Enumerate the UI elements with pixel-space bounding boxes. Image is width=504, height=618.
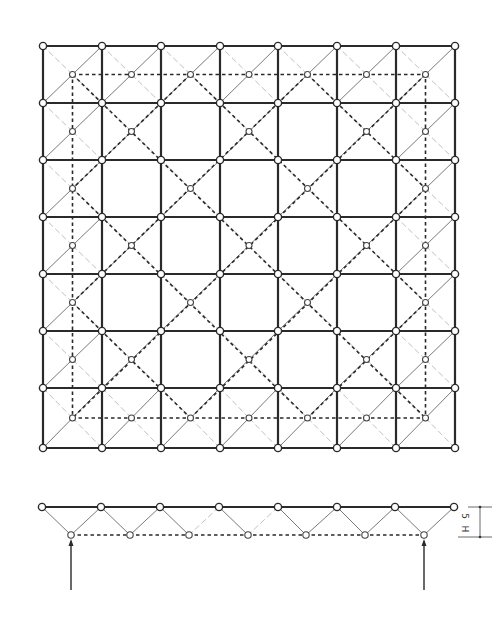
elevation-top-node [450, 503, 457, 510]
web-line [191, 303, 221, 332]
web-line [43, 46, 73, 75]
web-line [426, 331, 456, 360]
bottom-node [70, 186, 76, 192]
elevation-bottom-node [68, 532, 74, 538]
arrow-head [69, 539, 74, 546]
bottom-node [70, 129, 76, 135]
top-node [274, 99, 281, 106]
web-line [132, 388, 162, 418]
bottom-node [129, 243, 135, 249]
elevation-web-line [424, 507, 454, 535]
web-line [337, 46, 367, 75]
web-line [132, 360, 162, 389]
web-line [426, 360, 456, 389]
top-node [274, 213, 281, 220]
web-line [426, 388, 456, 418]
web-line [396, 217, 426, 246]
web-line [396, 132, 426, 161]
elevation-web-line [395, 507, 424, 535]
top-node [451, 42, 458, 49]
bottom-node [129, 72, 135, 78]
dimension-label: H 5 [462, 508, 476, 538]
top-node [39, 384, 46, 391]
web-line [220, 418, 249, 448]
bottom-node [423, 72, 429, 78]
elevation-web-line [306, 507, 337, 535]
dimension-label-top: H [460, 526, 470, 533]
elevation-top-node [333, 503, 340, 510]
top-node [98, 270, 105, 277]
web-line [426, 217, 456, 246]
web-line [249, 75, 278, 104]
bottom-node [70, 243, 76, 249]
bottom-node [423, 129, 429, 135]
web-line [73, 217, 103, 246]
elevation-bottom-node [245, 532, 251, 538]
web-line [220, 46, 249, 75]
elevation-web-line [130, 507, 160, 535]
elevation-web-line [248, 507, 278, 535]
bottom-node [246, 72, 252, 78]
web-line [161, 46, 191, 75]
top-node [157, 270, 164, 277]
top-node [98, 444, 105, 451]
top-node [216, 327, 223, 334]
web-line [396, 360, 426, 389]
top-node [157, 327, 164, 334]
web-line [43, 189, 73, 218]
elevation-top-node [97, 503, 104, 510]
top-node [216, 384, 223, 391]
top-node [451, 213, 458, 220]
web-line [43, 331, 73, 360]
top-node [274, 270, 281, 277]
top-node [216, 156, 223, 163]
web-line [43, 217, 73, 246]
web-line [367, 132, 397, 161]
web-line [367, 46, 397, 75]
web-line [337, 132, 367, 161]
elevation-web-line [71, 507, 101, 535]
web-line [102, 418, 132, 448]
web-line [73, 103, 103, 132]
web-line [102, 388, 132, 418]
elevation-web [42, 507, 454, 535]
web-line [102, 75, 132, 104]
top-node [451, 270, 458, 277]
web-line [426, 274, 456, 303]
web-line [396, 418, 426, 448]
top-node [392, 213, 399, 220]
plan-view [0, 0, 504, 470]
bottom-node [129, 415, 135, 421]
web-line [426, 189, 456, 218]
bottom-node [70, 415, 76, 421]
web-line [43, 160, 73, 189]
elevation-web-line [365, 507, 395, 535]
top-node [98, 99, 105, 106]
web-line [249, 360, 278, 389]
web-line [249, 388, 278, 418]
bottom-node [188, 300, 194, 306]
top-node [274, 156, 281, 163]
top-node [392, 384, 399, 391]
bottom-node [305, 415, 311, 421]
top-node [274, 444, 281, 451]
top-node [39, 99, 46, 106]
elevation-bottom-node [303, 532, 309, 538]
web-line [102, 132, 132, 161]
web-line [73, 246, 103, 275]
top-node [39, 156, 46, 163]
web-line [249, 331, 278, 360]
web-line [73, 132, 103, 161]
top-node [157, 42, 164, 49]
web-line [102, 46, 132, 75]
web-line [43, 103, 73, 132]
web-line [426, 160, 456, 189]
bottom-node [423, 243, 429, 249]
top-node [39, 444, 46, 451]
web-line [337, 388, 367, 418]
bottom-node [129, 357, 135, 363]
top-node [451, 327, 458, 334]
elevation-bottom-node [186, 532, 192, 538]
web-line [73, 46, 103, 75]
web-line [426, 103, 456, 132]
